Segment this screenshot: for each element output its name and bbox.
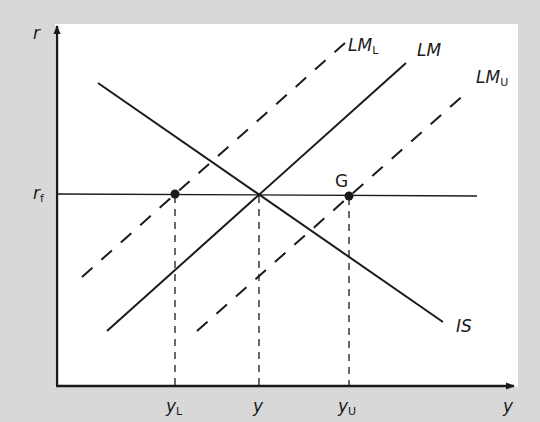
y-axis-label: r [33, 25, 40, 42]
x-tick-yl: yL [166, 398, 182, 417]
x-tick-y: y [253, 398, 263, 415]
point-g-label: G [335, 173, 348, 190]
x-axis-label: y [503, 398, 513, 415]
lm-u-label: LMU [476, 69, 508, 88]
lm-l-label: LML [348, 37, 378, 56]
lm-label: LM [417, 42, 441, 59]
point-g [345, 192, 354, 201]
diagram-canvas [0, 0, 540, 422]
is-lm-diagram: r rf LML LM LMU IS G yL y yU y [0, 0, 540, 422]
is-label: IS [456, 318, 472, 335]
point-yl [171, 190, 180, 199]
rf-label: rf [33, 185, 44, 204]
x-tick-yu: yU [338, 398, 356, 417]
plot-panel [55, 24, 518, 387]
